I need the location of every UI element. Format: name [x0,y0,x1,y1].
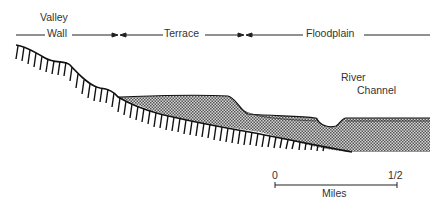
zone-divider-lines [16,33,430,37]
label-valley: Valley [40,12,68,23]
scale-end-label: 1/2 [388,170,403,181]
label-terrace: Terrace [164,28,199,39]
label-channel: Channel [357,85,396,96]
label-river: River [341,72,366,83]
label-floodplain: Floodplain [306,28,354,39]
alluvium-fill [118,95,430,152]
label-wall: Wall [47,28,67,39]
scale-unit-label: Miles [322,188,347,199]
cross-section-diagram [0,0,448,208]
scale-start-label: 0 [272,170,278,181]
